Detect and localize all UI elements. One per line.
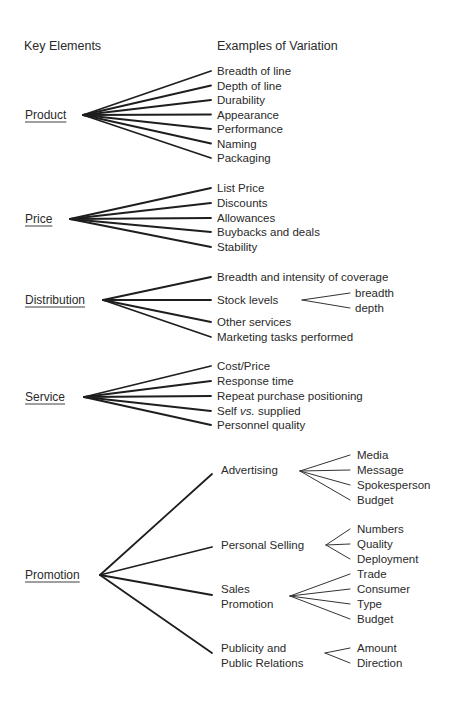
promotion-tool-personal-selling: Personal Selling — [221, 539, 304, 551]
sub-variation-stock-depth: depth — [355, 302, 384, 314]
variation-naming: Naming — [217, 138, 257, 150]
variation-appearance: Appearance — [217, 109, 279, 121]
header-key-elements: Key Elements — [24, 39, 101, 53]
sub-variation-advertising-message: Message — [357, 464, 404, 476]
promotion-tool-publicity-and-public-relations-line-1: Publicity and — [221, 642, 286, 654]
promotion-tool-advertising: Advertising — [221, 464, 278, 476]
key-element-product: Product — [25, 108, 67, 122]
sub-variation-personal-selling-deployment: Deployment — [357, 553, 419, 565]
branch-line — [70, 219, 211, 247]
key-element-service: Service — [25, 390, 65, 404]
sub-branch-line — [302, 293, 350, 300]
sub-branch-line — [290, 596, 350, 604]
sub-branch-line — [302, 300, 350, 308]
sub-variation-advertising-spokesperson: Spokesperson — [357, 479, 431, 491]
sub-branch-line — [290, 596, 350, 619]
variation-breadth-and-intensity-of-coverage: Breadth and intensity of coverage — [217, 271, 388, 283]
sub-variation-personal-selling-quality: Quality — [357, 538, 393, 550]
branch-line — [84, 397, 211, 425]
variation-packaging: Packaging — [217, 152, 271, 164]
branch-line — [83, 115, 211, 116]
variation-personnel-quality: Personnel quality — [217, 419, 305, 431]
marketing-mix-diagram: Key Elements Examples of Variation Produ… — [0, 0, 457, 704]
sub-variation-sales-promotion-consumer: Consumer — [357, 583, 410, 595]
variation-marketing-tasks-performed: Marketing tasks performed — [217, 331, 353, 343]
branch-line — [100, 575, 212, 653]
key-element-promotion: Promotion — [25, 568, 80, 582]
branch-line — [83, 115, 211, 144]
variation-performance: Performance — [217, 123, 283, 135]
variation-allowances: Allowances — [217, 212, 275, 224]
variation-breadth-of-line: Breadth of line — [217, 65, 291, 77]
sub-variation-sales-promotion-trade: Trade — [357, 568, 387, 580]
branch-line — [100, 474, 212, 575]
variation-other-services: Other services — [217, 316, 291, 328]
sub-branch-line — [326, 545, 350, 559]
branch-line — [84, 396, 211, 397]
sub-variation-publicity-and-public-relations-amount: Amount — [357, 642, 397, 654]
variation-repeat-purchase-positioning: Repeat purchase positioning — [217, 390, 363, 402]
variation-stability: Stability — [217, 241, 258, 253]
variation-depth-of-line: Depth of line — [217, 80, 282, 92]
variation-buybacks-and-deals: Buybacks and deals — [217, 226, 320, 238]
sub-variation-sales-promotion-budget: Budget — [357, 613, 394, 625]
promotion-tool-sales-promotion-line-2: Promotion — [221, 598, 273, 610]
branch-line — [84, 381, 211, 397]
sub-branch-line — [326, 529, 350, 545]
sub-branch-line — [300, 470, 350, 471]
branch-line — [70, 203, 211, 219]
key-element-price: Price — [25, 212, 53, 226]
variation-discounts: Discounts — [217, 197, 268, 209]
branch-line — [83, 86, 211, 116]
variation-list-price: List Price — [217, 182, 264, 194]
sub-variation-advertising-budget: Budget — [357, 494, 394, 506]
branch-line — [84, 366, 211, 397]
sub-variation-personal-selling-numbers: Numbers — [357, 523, 404, 535]
variation-response-time: Response time — [217, 375, 294, 387]
sub-branch-line — [300, 471, 350, 500]
promotion-tool-sales-promotion-line-1: Sales — [221, 583, 250, 595]
sub-branch-line — [325, 648, 350, 653]
sub-branch-line — [300, 471, 350, 485]
variation-self-vs-supplied: Self vs. supplied — [217, 405, 301, 417]
branch-line — [100, 575, 212, 595]
sub-branch-line — [300, 455, 350, 471]
sub-variation-advertising-media: Media — [357, 449, 389, 461]
branch-line — [103, 277, 211, 300]
branch-line — [84, 397, 211, 411]
branch-line — [70, 218, 211, 219]
variation-cost-price: Cost/Price — [217, 360, 270, 372]
variation-durability: Durability — [217, 94, 265, 106]
sub-variation-stock-breadth: breadth — [355, 287, 394, 299]
promotion-tool-publicity-and-public-relations-line-2: Public Relations — [221, 657, 304, 669]
sub-variation-publicity-and-public-relations-direction: Direction — [357, 657, 402, 669]
variation-stock-levels: Stock levels — [217, 294, 279, 306]
diagram-body: ProductBreadth of lineDepth of lineDurab… — [25, 65, 431, 669]
key-element-distribution: Distribution — [25, 293, 85, 307]
header-examples-of-variation: Examples of Variation — [217, 39, 338, 53]
sub-branch-line — [325, 653, 350, 663]
branch-line — [70, 219, 211, 232]
sub-variation-sales-promotion-type: Type — [357, 598, 382, 610]
branch-line — [70, 188, 211, 219]
sub-branch-line — [326, 544, 350, 545]
